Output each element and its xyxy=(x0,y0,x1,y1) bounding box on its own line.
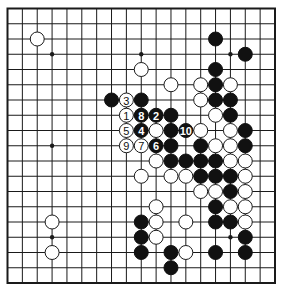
move-number: 8 xyxy=(138,110,144,122)
white-stone xyxy=(149,215,163,229)
move-number: 1 xyxy=(123,110,129,122)
black-stone xyxy=(238,124,252,138)
star-point xyxy=(50,235,54,239)
star-point xyxy=(139,52,143,56)
white-stone xyxy=(223,154,237,168)
star-point xyxy=(50,144,54,148)
black-stone xyxy=(179,154,193,168)
black-stone xyxy=(209,154,223,168)
star-point xyxy=(228,235,232,239)
black-stone xyxy=(134,246,148,260)
move-number: 7 xyxy=(138,140,144,152)
white-stone xyxy=(45,246,59,260)
black-stone xyxy=(238,139,252,153)
white-stone xyxy=(134,63,148,77)
black-stone xyxy=(194,169,208,183)
white-stone xyxy=(149,230,163,244)
white-stone xyxy=(209,139,223,153)
white-stone xyxy=(134,169,148,183)
move-number: 10 xyxy=(180,125,192,137)
black-stone xyxy=(134,230,148,244)
white-stone xyxy=(164,169,178,183)
white-stone xyxy=(223,78,237,92)
black-stone xyxy=(164,261,178,275)
move-number: 3 xyxy=(123,95,129,107)
black-stone xyxy=(209,93,223,107)
black-stone xyxy=(238,47,252,61)
black-stone xyxy=(134,93,148,107)
black-stone xyxy=(194,154,208,168)
white-stone xyxy=(164,78,178,92)
black-stone xyxy=(209,63,223,77)
black-stone xyxy=(164,154,178,168)
white-stone xyxy=(179,169,193,183)
black-stone xyxy=(134,215,148,229)
numbered-move: 10 xyxy=(179,124,193,138)
move-number: 6 xyxy=(153,140,159,152)
numbered-move: 4 xyxy=(134,124,148,138)
black-stone xyxy=(209,169,223,183)
move-number: 5 xyxy=(123,125,129,137)
white-stone xyxy=(209,108,223,122)
black-stone xyxy=(238,246,252,260)
white-stone xyxy=(179,215,193,229)
white-stone xyxy=(238,169,252,183)
white-stone xyxy=(209,185,223,199)
black-stone xyxy=(164,246,178,260)
black-stone xyxy=(223,169,237,183)
white-stone xyxy=(30,32,44,46)
black-stone xyxy=(238,230,252,244)
white-stone xyxy=(223,200,237,214)
black-stone xyxy=(209,78,223,92)
black-stone xyxy=(164,108,178,122)
white-stone xyxy=(238,154,252,168)
go-board: 12345678910 xyxy=(0,0,281,293)
numbered-move: 3 xyxy=(119,93,133,107)
white-stone xyxy=(194,93,208,107)
black-stone xyxy=(164,139,178,153)
white-stone xyxy=(194,185,208,199)
black-stone xyxy=(209,215,223,229)
white-stone xyxy=(149,154,163,168)
white-stone xyxy=(149,200,163,214)
numbered-move: 5 xyxy=(119,124,133,138)
numbered-move: 2 xyxy=(149,108,163,122)
white-stone xyxy=(194,78,208,92)
star-point xyxy=(228,52,232,56)
numbered-move: 6 xyxy=(149,139,163,153)
white-stone xyxy=(238,200,252,214)
black-stone xyxy=(164,124,178,138)
white-stone xyxy=(238,185,252,199)
black-stone xyxy=(105,93,119,107)
black-stone xyxy=(209,246,223,260)
numbered-move: 9 xyxy=(119,139,133,153)
numbered-move: 7 xyxy=(134,139,148,153)
black-stone xyxy=(223,185,237,199)
move-number: 4 xyxy=(138,125,145,137)
white-stone xyxy=(149,124,163,138)
black-stone xyxy=(223,108,237,122)
white-stone xyxy=(223,139,237,153)
black-stone xyxy=(223,215,237,229)
black-stone xyxy=(194,139,208,153)
move-number: 2 xyxy=(153,110,159,122)
numbered-move: 1 xyxy=(119,108,133,122)
black-stone xyxy=(209,200,223,214)
move-number: 9 xyxy=(123,140,129,152)
white-stone xyxy=(223,124,237,138)
black-stone xyxy=(209,32,223,46)
white-stone xyxy=(45,215,59,229)
black-stone xyxy=(223,93,237,107)
white-stone xyxy=(179,246,193,260)
numbered-move: 8 xyxy=(134,108,148,122)
white-stone xyxy=(194,124,208,138)
star-point xyxy=(50,52,54,56)
white-stone xyxy=(238,215,252,229)
